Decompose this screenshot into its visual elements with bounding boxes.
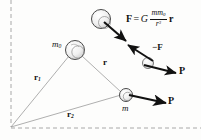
label-mass-m: m [122, 104, 129, 113]
equation-equals-sign: = [134, 13, 140, 24]
equation-force-symbol: F [126, 13, 132, 24]
label-momentum-upper: P [179, 66, 185, 76]
label-r1-subscript: 1 [38, 76, 41, 82]
label-momentum-lower: P [168, 96, 174, 106]
gravitation-force-diagram: F = G mm0 r3 r m0 m r1 r2 r −F P P [0, 0, 201, 140]
equation-fraction: mm0 r3 [150, 9, 166, 28]
equation-denominator-exponent: 3 [159, 20, 161, 25]
equation-numerator: mm0 [150, 9, 166, 19]
equation-denominator: r3 [155, 20, 163, 29]
momentum-lower-arrow [129, 95, 166, 103]
force-F-arrow [104, 22, 126, 41]
reaction-minusF-arrow [128, 45, 153, 61]
label-reaction-force: −F [152, 43, 163, 52]
label-position-vector-r1: r1 [34, 73, 41, 83]
equation-numerator-subscript: 0 [163, 12, 165, 17]
momentum-upper-arrow [144, 65, 176, 73]
label-mass-m0-subscript: 0 [59, 43, 62, 49]
label-r2-subscript: 2 [71, 113, 74, 119]
label-mass-m0: m0 [52, 40, 61, 50]
label-separation-vector-r: r [103, 58, 107, 67]
equation-radius-vector: r [169, 13, 173, 24]
equation-gravitational-constant: G [141, 13, 148, 24]
label-position-vector-r2: r2 [67, 110, 74, 120]
gravitation-equation: F = G mm0 r3 r [126, 9, 173, 28]
